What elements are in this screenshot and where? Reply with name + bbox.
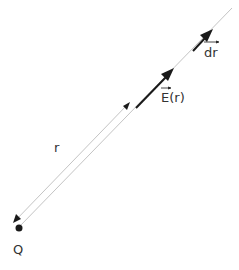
distance-arrow	[14, 104, 128, 222]
field-label: E(r)	[161, 91, 185, 104]
field-diagram	[0, 0, 239, 270]
dr-label: dr	[204, 46, 218, 59]
charge-point	[16, 225, 23, 232]
radial-line	[20, 8, 232, 226]
charge-label: Q	[13, 243, 23, 256]
distance-label: r	[54, 141, 59, 154]
